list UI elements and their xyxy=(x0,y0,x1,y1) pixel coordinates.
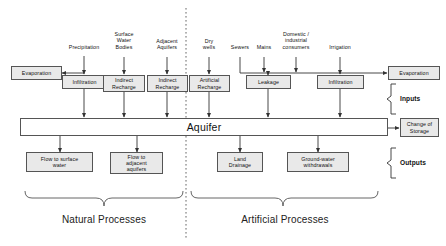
aquifer-bar[interactable]: Aquifer xyxy=(20,118,388,136)
brace-outputs xyxy=(387,148,396,178)
label-adjacent-aquifers: Adjacent Aquifers xyxy=(146,38,188,51)
box-leakage[interactable]: Leakage xyxy=(246,75,291,89)
brace-artificial-processes xyxy=(191,191,378,206)
box-evaporation-natural[interactable]: Evaporation xyxy=(11,66,62,80)
box-change-of-storage[interactable]: Change of Storage xyxy=(400,118,439,137)
box-artificial-recharge[interactable]: Artificial Recharge xyxy=(189,75,230,92)
box-flow-to-surface-water[interactable]: Flow to surface water xyxy=(26,152,93,172)
brace-natural-processes xyxy=(25,191,183,206)
box-evaporation-artificial[interactable]: Evaporation xyxy=(388,66,440,80)
aquifer-label: Aquifer xyxy=(187,121,222,133)
box-flow-to-adjacent-aquifers[interactable]: Flow to adjacent aquifers xyxy=(110,152,163,174)
label-inputs: Inputs xyxy=(400,95,420,102)
label-irrigation: Irrigation xyxy=(318,44,362,50)
brace-inputs xyxy=(387,84,396,114)
label-domestic-industrial-consumers: Domestic / industrial consumers xyxy=(272,31,320,50)
label-surface-water-bodies: Surface Water Bodies xyxy=(103,31,145,50)
box-infiltration-natural[interactable]: Infiltration xyxy=(62,75,107,89)
label-outputs: Outputs xyxy=(400,159,426,166)
caption-natural-processes: Natural Processes xyxy=(24,214,184,225)
box-groundwater-withdrawals[interactable]: Ground-water withdrawals xyxy=(287,152,349,172)
box-indirect-recharge-surface[interactable]: Indirect Recharge xyxy=(103,75,145,92)
diagram-canvas: Precipitation Surface Water Bodies Adjac… xyxy=(0,0,446,246)
caption-artificial-processes: Artificial Processes xyxy=(196,214,374,225)
box-infiltration-artificial[interactable]: Infiltration xyxy=(317,75,364,89)
box-land-drainage[interactable]: Land Drainage xyxy=(217,152,263,172)
box-indirect-recharge-adjacent[interactable]: Indirect Recharge xyxy=(147,75,188,92)
